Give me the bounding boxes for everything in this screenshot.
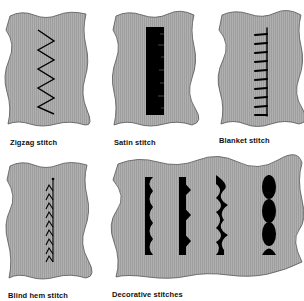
fabric-blanket bbox=[215, 0, 304, 130]
label-zigzag: Zigzag stitch bbox=[10, 138, 57, 147]
swatch-blind-hem: Blind hem stitch bbox=[0, 150, 100, 301]
fabric-decorative bbox=[108, 150, 304, 301]
label-decorative: Decorative stitches bbox=[112, 290, 183, 299]
swatch-satin: Satin stitch bbox=[108, 0, 203, 130]
swatch-decorative: Decorative stitches bbox=[108, 150, 304, 301]
fabric-zigzag bbox=[0, 0, 100, 130]
label-blind-hem: Blind hem stitch bbox=[8, 291, 68, 300]
label-blanket: Blanket stitch bbox=[219, 136, 270, 145]
fabric-satin bbox=[108, 0, 203, 130]
fabric-blind-hem bbox=[0, 150, 100, 301]
swatch-zigzag: Zigzag stitch bbox=[0, 0, 100, 130]
satin-stitch-icon bbox=[146, 27, 164, 115]
label-satin: Satin stitch bbox=[114, 138, 156, 147]
swatch-blanket: Blanket stitch bbox=[215, 0, 304, 130]
